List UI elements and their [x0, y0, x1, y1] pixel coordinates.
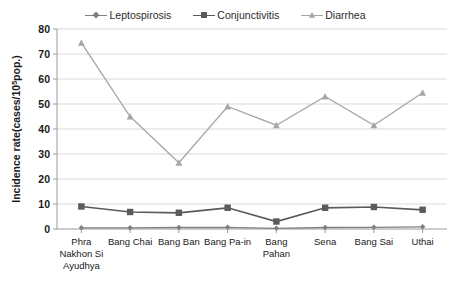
data-point-conjunctivitis-1 [127, 209, 133, 215]
data-point-conjunctivitis-4 [273, 218, 279, 224]
x-tick-label-0: PhraNakhon SiAyudhya [59, 236, 103, 271]
data-point-conjunctivitis-7 [419, 207, 425, 213]
x-tick-label-5: Sena [314, 236, 337, 247]
data-point-diarrhea-6 [370, 122, 377, 128]
y-tick-label-70: 70 [38, 48, 50, 60]
y-tick-label-40: 40 [38, 123, 50, 135]
plot-svg: 01020304050607080PhraNakhon SiAyudhyaBan… [0, 0, 451, 284]
y-tick-label-80: 80 [38, 23, 50, 35]
data-point-conjunctivitis-3 [224, 205, 230, 211]
data-point-conjunctivitis-6 [371, 204, 377, 210]
svg-text:Incidence rate(cases/105pop.): Incidence rate(cases/105pop.) [10, 55, 22, 202]
y-tick-label-30: 30 [38, 148, 50, 160]
data-point-conjunctivitis-0 [78, 203, 84, 209]
x-tick-label-2: Bang Ban [158, 236, 200, 247]
series-line-diarrhea [81, 43, 422, 163]
x-tick-label-7: Uthai [412, 236, 434, 247]
data-point-diarrhea-4 [273, 122, 280, 128]
data-point-conjunctivitis-2 [176, 210, 182, 216]
data-point-leptospirosis-0 [79, 225, 84, 230]
y-tick-label-10: 10 [38, 198, 50, 210]
data-point-conjunctivitis-5 [322, 205, 328, 211]
y-axis-title: Incidence rate(cases/105pop.) [10, 55, 22, 202]
y-tick-label-0: 0 [44, 223, 50, 235]
y-tick-label-60: 60 [38, 73, 50, 85]
incidence-rate-line-chart: Leptospirosis Conjunctivitis Diarrhea 01… [0, 0, 451, 284]
y-tick-label-50: 50 [38, 98, 50, 110]
data-point-diarrhea-5 [322, 93, 329, 99]
x-tick-label-6: Bang Sai [355, 236, 394, 247]
x-tick-label-1: Bang Chai [108, 236, 152, 247]
data-point-diarrhea-7 [419, 89, 426, 95]
data-point-diarrhea-0 [78, 39, 85, 45]
plot-area: 01020304050607080PhraNakhon SiAyudhyaBan… [0, 0, 451, 284]
data-point-leptospirosis-4 [274, 226, 279, 231]
x-tick-label-4: BangPahan [263, 236, 290, 259]
y-tick-label-20: 20 [38, 173, 50, 185]
x-tick-label-3: Bang Pa-in [204, 236, 251, 247]
data-point-leptospirosis-1 [127, 225, 132, 230]
